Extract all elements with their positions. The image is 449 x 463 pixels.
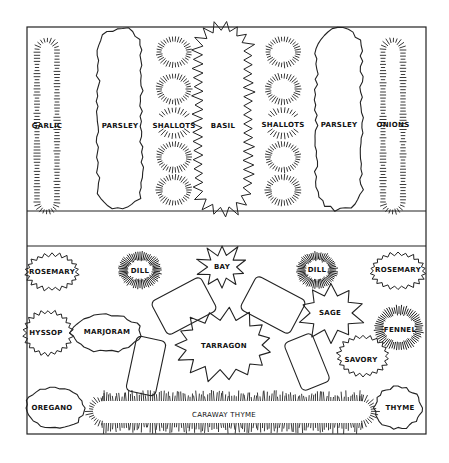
plant-parsley-5	[314, 27, 363, 211]
plant-shallots-2-clump-1	[156, 73, 193, 105]
stepping-stone-4	[283, 332, 330, 391]
label-caraway-thyme: CARAWAY THYME	[192, 412, 256, 419]
label-basil: BASIL	[211, 123, 235, 130]
label-dill-left: DILL	[131, 268, 150, 275]
plant-shallots-2-clump-0	[156, 36, 192, 68]
plant-shallots-4-clump-4	[264, 174, 301, 207]
label-garlic: GARLIC	[32, 123, 63, 130]
label-dill-right: DILL	[308, 267, 327, 274]
label-oregano: OREGANO	[31, 405, 72, 412]
plant-shallots-2-clump-4	[155, 174, 192, 206]
label-tarragon: TARRAGON	[201, 343, 247, 350]
label-onions: ONIONS	[376, 122, 409, 129]
label-parsley-left: PARSLEY	[102, 123, 139, 130]
stepping-stone-1	[150, 276, 217, 336]
label-rosemary-left: ROSEMARY	[29, 269, 75, 276]
plant-shapes	[23, 22, 426, 435]
label-parsley-right: PARSLEY	[321, 122, 358, 129]
label-thyme: THYME	[386, 405, 415, 412]
plant-parsley-1	[96, 28, 143, 209]
plant-basil-3	[192, 22, 256, 217]
label-hyssop: HYSSOP	[29, 330, 63, 337]
label-bay: BAY	[214, 264, 230, 271]
plant-shallots-4-clump-3	[265, 141, 301, 173]
label-fennel: FENNEL	[384, 327, 416, 334]
label-shallots-left: SHALLOTS	[152, 123, 195, 130]
plant-shallots-4-clump-1	[265, 73, 302, 105]
plant-shallots-2-clump-3	[156, 141, 192, 173]
plant-shallots-4-clump-0	[266, 37, 301, 69]
garden-plan-diagram	[0, 0, 449, 463]
label-marjoram: MARJORAM	[84, 329, 131, 336]
label-sage: SAGE	[319, 310, 341, 317]
label-savory: SAVORY	[344, 357, 377, 364]
label-shallots-right: SHALLOTS	[261, 122, 304, 129]
label-rosemary-right: ROSEMARY	[375, 267, 421, 274]
